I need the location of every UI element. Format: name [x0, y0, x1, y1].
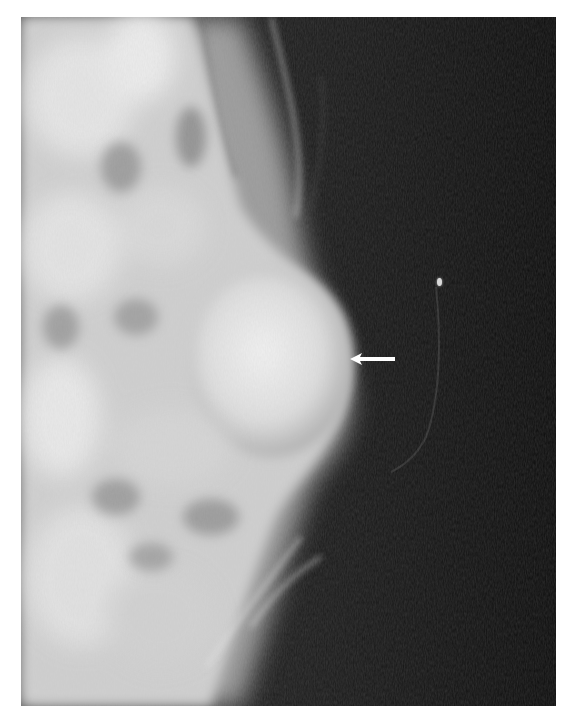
annotation-arrow-icon [350, 352, 395, 366]
page: Grayscale breast radiograph with an oval… [0, 0, 576, 721]
breast-tissue-rendering [21, 17, 556, 706]
mammogram-image [21, 17, 556, 706]
skin-marker-dot [437, 278, 442, 286]
image-description: Grayscale breast radiograph with an oval… [0, 0, 1, 1]
